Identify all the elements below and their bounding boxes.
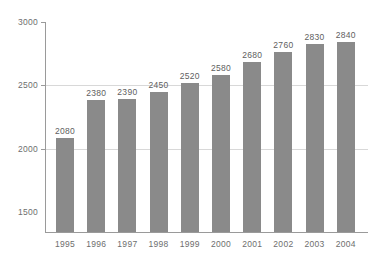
y-tick-mark — [41, 149, 46, 150]
bar-value-label: 2840 — [329, 30, 363, 40]
bar-value-label: 2580 — [204, 63, 238, 73]
bar-value-label: 2680 — [235, 50, 269, 60]
x-tick-label: 2002 — [266, 239, 300, 249]
bar — [87, 100, 105, 232]
bar — [150, 92, 168, 232]
bar-value-label: 2380 — [79, 88, 113, 98]
bar-value-label: 2520 — [173, 71, 207, 81]
gridline-3000 — [45, 22, 368, 23]
bar — [212, 75, 230, 232]
x-axis-line — [45, 232, 368, 233]
x-tick-label: 2000 — [204, 239, 238, 249]
bar — [181, 83, 199, 232]
x-tick-label: 1997 — [110, 239, 144, 249]
y-tick-1500: 1500 — [0, 207, 38, 217]
y-tick-label: 1500 — [6, 207, 38, 217]
y-tick-3000: 3000 — [0, 17, 38, 27]
bar — [337, 42, 355, 232]
bar-value-label: 2450 — [142, 80, 176, 90]
y-tick-2500: 2500 — [0, 80, 38, 90]
bar-value-label: 2760 — [266, 40, 300, 50]
bar-value-label: 2830 — [298, 32, 332, 42]
y-tick-mark — [41, 85, 46, 86]
x-tick-label: 2001 — [235, 239, 269, 249]
y-tick-label: 3000 — [6, 17, 38, 27]
x-tick-label: 2004 — [329, 239, 363, 249]
y-tick-2000: 2000 — [0, 144, 38, 154]
bar — [56, 138, 74, 232]
x-tick-label: 1996 — [79, 239, 113, 249]
bar — [274, 52, 292, 232]
bar — [306, 44, 324, 232]
bar-chart: 1500200025003000 20802380239024502520258… — [0, 0, 374, 259]
y-tick-mark — [41, 22, 46, 23]
y-tick-label: 2000 — [6, 144, 38, 154]
bar-value-label: 2080 — [48, 126, 82, 136]
x-tick-label: 1999 — [173, 239, 207, 249]
x-tick-label: 1998 — [142, 239, 176, 249]
x-tick-label: 2003 — [298, 239, 332, 249]
x-tick-label: 1995 — [48, 239, 82, 249]
bar — [118, 99, 136, 232]
bar-value-label: 2390 — [110, 87, 144, 97]
y-tick-label: 2500 — [6, 80, 38, 90]
bar — [243, 62, 261, 232]
y-axis-line — [45, 22, 46, 233]
